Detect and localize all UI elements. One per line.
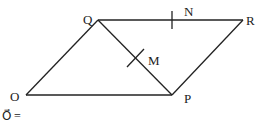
parallelogram-diagram <box>0 0 263 122</box>
vertex-label-p: P <box>184 92 191 105</box>
footer-vector-text: O⃗ = <box>2 110 21 122</box>
vertex-label-q: Q <box>83 13 92 26</box>
segment-qo <box>26 20 98 95</box>
vertex-label-r: R <box>246 14 255 27</box>
point-label-n: N <box>184 5 193 18</box>
segment-qp <box>98 20 172 95</box>
point-label-m: M <box>148 54 160 67</box>
vertex-label-o: O <box>10 90 19 103</box>
segment-pr <box>172 20 243 95</box>
